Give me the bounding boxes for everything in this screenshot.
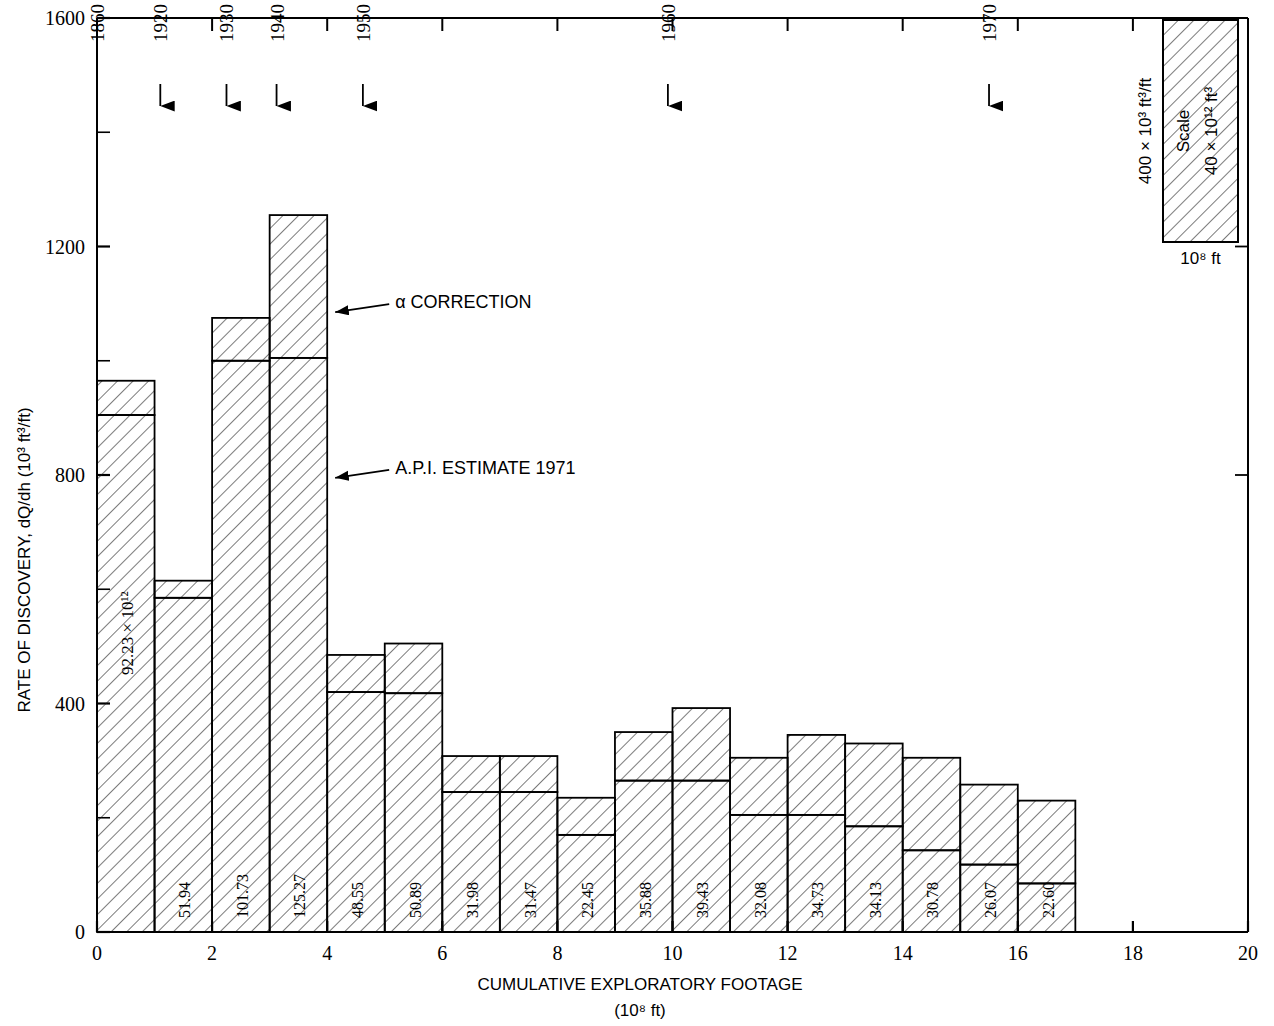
bar-segment-alpha-correction <box>788 735 846 815</box>
y-tick-label: 1200 <box>45 236 85 258</box>
bar-value-label: 48.55 <box>349 882 366 918</box>
bar-value-label: 26.07 <box>982 882 999 918</box>
bar-value-label: 50.89 <box>407 882 424 918</box>
bar-segment-alpha-correction <box>442 756 500 792</box>
bar-value-label: 51.94 <box>176 882 193 918</box>
bar-value-label: 125.27 <box>291 874 308 918</box>
bar-segment-alpha-correction <box>615 732 673 781</box>
bar-value-label: 32.08 <box>752 882 769 918</box>
bar-value-label: 31.47 <box>522 882 539 918</box>
bar-value-label: 31.98 <box>464 882 481 918</box>
bar-segment-alpha-correction <box>730 758 788 815</box>
bar-segment-alpha-correction <box>1018 801 1076 884</box>
bar-segment-alpha-correction <box>500 756 558 792</box>
scale-box-left-label: 400 × 10³ ft³/ft <box>1136 78 1155 185</box>
x-tick-label: 14 <box>893 942 913 964</box>
discovery-rate-bar-chart: 0400800120016000246810121416182092.23 × … <box>0 0 1274 1026</box>
year-marker-label: 1920 <box>150 4 171 42</box>
bar-value-label: 34.73 <box>809 882 826 918</box>
x-tick-label: 2 <box>207 942 217 964</box>
bar-value-label: 35.88 <box>637 882 654 918</box>
x-tick-label: 16 <box>1008 942 1028 964</box>
bar-group <box>212 318 270 932</box>
figure-root: 0400800120016000246810121416182092.23 × … <box>0 0 1274 1026</box>
x-tick-label: 4 <box>322 942 332 964</box>
year-marker-label: 1940 <box>267 4 288 42</box>
bar-segment-alpha-correction <box>97 381 155 415</box>
x-tick-label: 10 <box>663 942 683 964</box>
year-marker-label: 1950 <box>353 4 374 42</box>
bar-segment-alpha-correction <box>155 581 213 598</box>
x-tick-label: 12 <box>778 942 798 964</box>
annotation-leader-line <box>335 470 389 478</box>
y-tick-label: 800 <box>55 464 85 486</box>
bar-segment-api-estimate <box>270 358 328 932</box>
annotation-leader-line <box>335 304 389 312</box>
bar-segment-alpha-correction <box>960 785 1018 865</box>
bar-value-label: 22.45 <box>579 882 596 918</box>
year-marker-label: 1960 <box>658 4 679 42</box>
bar-value-label: 34.13 <box>867 882 884 918</box>
bar-segment-alpha-correction <box>903 758 961 851</box>
bar-value-label: 30.78 <box>924 882 941 918</box>
bar-segment-alpha-correction <box>557 798 615 835</box>
bar-group <box>270 215 328 932</box>
bar-segment-alpha-correction <box>270 215 328 358</box>
scale-box-inner-value: 40 × 10¹² ft³ <box>1202 86 1221 175</box>
bar-segment-alpha-correction <box>673 708 731 781</box>
x-axis-units: (10⁸ ft) <box>614 1001 666 1020</box>
bar-segment-alpha-correction <box>845 743 903 826</box>
x-tick-label: 6 <box>437 942 447 964</box>
bar-segment-alpha-correction <box>212 318 270 361</box>
scale-box-bottom-label: 10⁸ ft <box>1180 249 1221 268</box>
x-tick-label: 8 <box>552 942 562 964</box>
bar-group <box>155 581 213 932</box>
annotation-label: A.P.I. ESTIMATE 1971 <box>395 458 575 478</box>
bar-segment-api-estimate <box>212 361 270 932</box>
bar-value-label: 101.73 <box>234 874 251 918</box>
x-tick-label: 0 <box>92 942 102 964</box>
year-marker-label: 1930 <box>216 4 237 42</box>
annotation-label: α CORRECTION <box>395 292 531 312</box>
y-tick-label: 0 <box>75 921 85 943</box>
bar-segment-api-estimate <box>155 598 213 932</box>
x-tick-label: 18 <box>1123 942 1143 964</box>
bar-value-label: 22.60 <box>1040 882 1057 918</box>
year-marker-label: 1860 <box>87 4 108 42</box>
scale-box-inner-label: Scale <box>1174 110 1193 153</box>
bar-value-label: 39.43 <box>694 882 711 918</box>
bar-segment-alpha-correction <box>385 644 443 694</box>
y-axis-title: RATE OF DISCOVERY, dQ/dh (10³ ft³/ft) <box>15 407 34 712</box>
x-axis-title: CUMULATIVE EXPLORATORY FOOTAGE <box>478 975 803 994</box>
x-tick-label: 20 <box>1238 942 1258 964</box>
y-tick-label: 400 <box>55 693 85 715</box>
bar-segment-alpha-correction <box>327 655 385 692</box>
y-tick-label: 1600 <box>45 7 85 29</box>
year-marker-label: 1970 <box>979 4 1000 42</box>
bar-value-label: 92.23 × 10¹² <box>118 591 137 675</box>
